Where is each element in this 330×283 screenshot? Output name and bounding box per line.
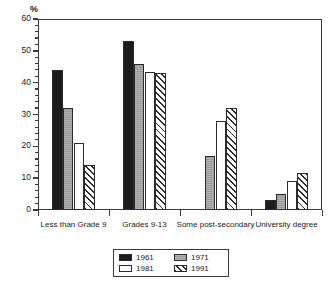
bar bbox=[226, 108, 237, 210]
bars-layer bbox=[38, 19, 322, 210]
bar bbox=[216, 121, 227, 210]
bar bbox=[84, 165, 95, 210]
x-axis-tick bbox=[322, 210, 323, 216]
bar bbox=[205, 156, 216, 210]
x-axis-tick bbox=[109, 210, 110, 216]
legend-swatch-diagonal-hatch bbox=[174, 265, 187, 272]
bar bbox=[265, 200, 276, 210]
bar bbox=[52, 70, 63, 210]
legend-label: 1991 bbox=[191, 264, 209, 273]
legend-swatch-solid-black bbox=[119, 254, 132, 261]
y-axis-tick-label: 60 bbox=[7, 13, 31, 23]
bar bbox=[123, 41, 134, 210]
y-axis-tick-label: 20 bbox=[7, 140, 31, 150]
legend-label: 1961 bbox=[136, 253, 154, 262]
legend-label: 1981 bbox=[136, 264, 154, 273]
x-axis-tick bbox=[251, 210, 252, 216]
legend-item: 1971 bbox=[174, 253, 223, 262]
x-axis-category-label: Some post-secondary bbox=[177, 220, 255, 229]
bar bbox=[134, 64, 145, 210]
y-axis-tick-label: 0 bbox=[7, 204, 31, 214]
legend-item: 1991 bbox=[174, 264, 223, 273]
legend: 1961197119811991 bbox=[113, 249, 229, 277]
y-axis-tick-label: 40 bbox=[7, 77, 31, 87]
x-axis-tick bbox=[180, 210, 181, 216]
legend-label: 1971 bbox=[191, 253, 209, 262]
bar bbox=[287, 181, 298, 210]
y-axis-tick-label: 50 bbox=[7, 45, 31, 55]
bar bbox=[155, 73, 166, 210]
legend-swatch-solid-gray bbox=[174, 254, 187, 261]
x-axis-tick bbox=[38, 210, 39, 216]
y-axis: 0102030405060 bbox=[0, 0, 38, 210]
bar bbox=[145, 72, 156, 210]
x-axis-category-label: Grades 9-13 bbox=[122, 220, 166, 229]
bar bbox=[63, 108, 74, 210]
x-axis-category-label: Less than Grade 9 bbox=[41, 220, 107, 229]
bar-chart: % 0102030405060 Less than Grade 9Grades … bbox=[0, 0, 330, 283]
x-axis-category-label: University degree bbox=[255, 220, 317, 229]
y-axis-tick-label: 30 bbox=[7, 109, 31, 119]
legend-item: 1981 bbox=[119, 264, 168, 273]
y-axis-tick-label: 10 bbox=[7, 172, 31, 182]
bar bbox=[74, 143, 85, 210]
bar bbox=[297, 173, 308, 210]
legend-item: 1961 bbox=[119, 253, 168, 262]
bar bbox=[276, 194, 287, 210]
legend-swatch-solid-white bbox=[119, 265, 132, 272]
